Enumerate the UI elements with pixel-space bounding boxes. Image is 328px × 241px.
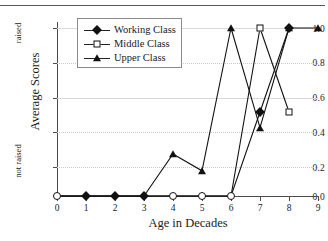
legend-label-upper-class: Upper Class: [111, 52, 166, 64]
y-anchor-label-raised: raised: [13, 13, 23, 53]
chart-legend: Working Class Middle Class Upper Class: [77, 18, 182, 68]
legend-marker-filled-triangle-icon: [83, 52, 111, 64]
x-tick-label-2: 2: [105, 203, 125, 213]
y-axis-title: Average Scores: [28, 32, 43, 152]
x-tick-mark-6: [231, 197, 232, 201]
x-tick-mark-5: [202, 197, 203, 201]
x-axis-title: Age in Decades: [57, 216, 319, 231]
x-tick-label-3: 3: [134, 203, 154, 213]
x-tick-label-6: 6: [221, 203, 241, 213]
legend-marker-open-square-icon: [83, 38, 111, 50]
x-tick-mark-9: [318, 197, 319, 201]
x-tick-label-0: 0: [47, 203, 67, 213]
x-tick-label-9: 9: [308, 203, 328, 213]
x-tick-mark-4: [173, 197, 174, 201]
legend-item-working-class[interactable]: Working Class: [83, 23, 176, 37]
x-tick-mark-8: [289, 197, 290, 201]
x-tick-label-5: 5: [192, 203, 212, 213]
legend-label-middle-class: Middle Class: [111, 38, 170, 50]
legend-item-upper-class[interactable]: Upper Class: [83, 51, 176, 65]
x-tick-mark-2: [115, 197, 116, 201]
y-anchor-label-not-raised: not raised: [13, 135, 23, 187]
x-tick-label-4: 4: [163, 203, 183, 213]
x-tick-mark-1: [86, 197, 87, 201]
x-tick-label-1: 1: [76, 203, 96, 213]
legend-marker-filled-diamond-icon: [83, 24, 111, 36]
chart-figure: Average Scores raised not raised 1.0 0.8…: [0, 6, 325, 241]
x-tick-mark-3: [144, 197, 145, 201]
legend-item-middle-class[interactable]: Middle Class: [83, 37, 176, 51]
x-tick-mark-7: [260, 197, 261, 201]
legend-label-working-class: Working Class: [111, 24, 176, 36]
x-tick-mark-0: [57, 197, 58, 201]
x-tick-label-8: 8: [279, 203, 299, 213]
x-tick-label-7: 7: [250, 203, 270, 213]
